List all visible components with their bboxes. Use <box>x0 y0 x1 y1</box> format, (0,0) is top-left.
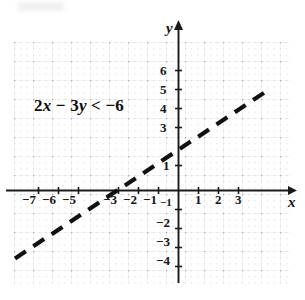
y-tick-label-3: 3 <box>160 120 167 136</box>
x-tick-label-neg5: −5 <box>62 192 76 208</box>
x-tick-label-3: 3 <box>235 192 242 208</box>
relation-sign: < <box>87 96 106 115</box>
x-axis-label: x <box>288 194 296 211</box>
y-tick-label-neg4: −4 <box>156 253 170 269</box>
var-y: y <box>79 96 87 115</box>
x-tick-label-neg2: −2 <box>123 192 137 208</box>
x-tick-label-1: 1 <box>195 192 202 208</box>
minus-sign: − <box>51 96 70 115</box>
x-tick-label-2: 2 <box>215 192 222 208</box>
graph-figure: y x −7 −6 −5 −3 −2 −1 1 2 3 6 5 4 3 1 −1… <box>0 0 305 300</box>
coef-a: 2 <box>34 96 43 115</box>
y-axis-label: y <box>166 20 173 37</box>
y-axis-arrow-icon <box>174 20 183 30</box>
y-tick-label-6: 6 <box>160 63 167 79</box>
y-tick-label-1: 1 <box>163 158 170 174</box>
boundary-line-dashed <box>15 92 266 259</box>
coef-b: 3 <box>70 96 79 115</box>
x-tick-label-neg7: −7 <box>22 192 36 208</box>
constant-c: −6 <box>105 96 124 115</box>
inequality-annotation: 2x − 3y < −6 <box>34 96 124 116</box>
x-tick-label-neg3: −3 <box>103 192 117 208</box>
y-tick-label-neg1: −1 <box>160 196 172 208</box>
x-tick-label-neg6: −6 <box>42 192 56 208</box>
y-tick-label-4: 4 <box>160 101 167 117</box>
coordinate-plane <box>0 0 305 300</box>
y-tick-label-5: 5 <box>160 82 167 98</box>
y-tick-label-neg2: −2 <box>156 215 170 231</box>
x-tick-label-neg1: −1 <box>143 192 157 208</box>
y-tick-label-neg3: −3 <box>156 234 170 250</box>
